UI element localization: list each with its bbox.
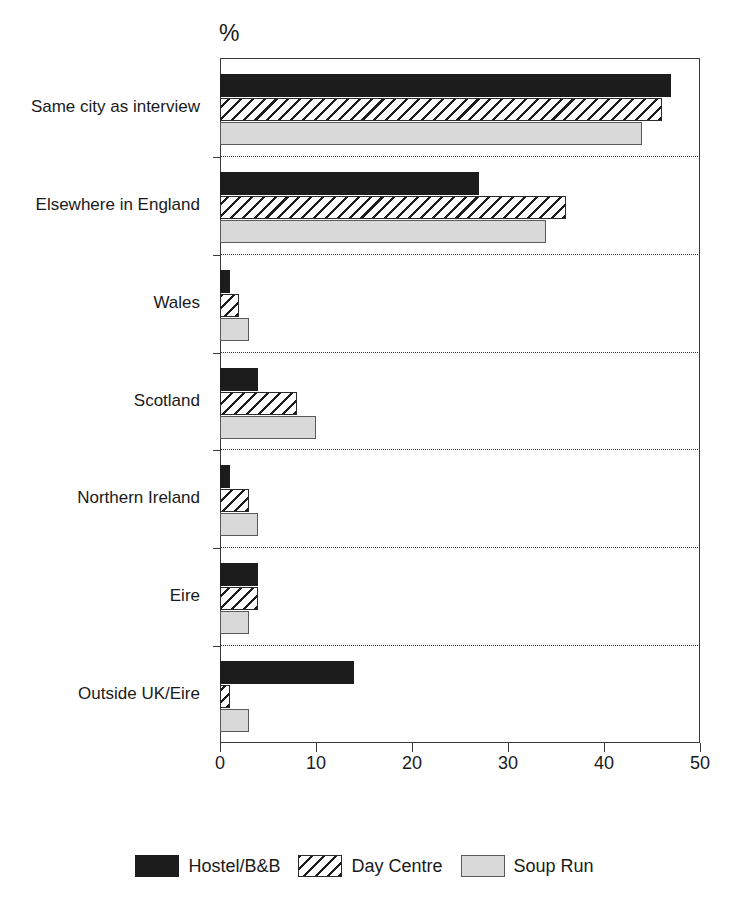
legend-swatch-souprun (461, 855, 505, 877)
bar-hostel (220, 563, 258, 586)
x-axis-tick-label: 20 (402, 752, 422, 774)
x-axis-tick-label: 10 (306, 752, 326, 774)
bar-daycentre (220, 489, 249, 512)
category-label: Eire (0, 586, 200, 606)
x-axis-tick (220, 743, 221, 752)
bar-hostel (220, 74, 671, 97)
bar-souprun (220, 611, 249, 634)
bar-hostel (220, 661, 354, 684)
x-axis-unit-label: % (219, 20, 240, 46)
bar-groups (220, 58, 700, 743)
bar-daycentre (220, 392, 297, 415)
bar-daycentre (220, 294, 239, 317)
category-label: Wales (0, 293, 200, 313)
bar-group (220, 352, 700, 450)
x-axis-tick-label: 30 (498, 752, 518, 774)
bar-souprun (220, 220, 546, 243)
legend-item-souprun[interactable]: Soup Run (461, 855, 594, 877)
x-axis-tick-label: 50 (690, 752, 710, 774)
x-axis-tick-label: 0 (215, 752, 225, 774)
bar-group (220, 449, 700, 547)
category-label: Scotland (0, 391, 200, 411)
bar-souprun (220, 513, 258, 536)
legend-label: Day Centre (351, 855, 442, 877)
bar-group (220, 547, 700, 645)
bar-hostel (220, 465, 230, 488)
bar-chart: % Same city as interviewElsewhere in Eng… (0, 0, 729, 904)
x-axis-tick (316, 743, 317, 752)
category-label: Northern Ireland (0, 488, 200, 508)
x-axis-tick (604, 743, 605, 752)
x-axis-tick (412, 743, 413, 752)
bar-group (220, 156, 700, 254)
x-axis-tick (700, 743, 701, 752)
x-axis-tick-label: 40 (594, 752, 614, 774)
legend-swatch-daycentre (298, 855, 342, 877)
bar-souprun (220, 318, 249, 341)
bar-souprun (220, 416, 316, 439)
bar-daycentre (220, 98, 662, 121)
x-axis-tick (508, 743, 509, 752)
bar-hostel (220, 270, 230, 293)
bar-hostel (220, 172, 479, 195)
bar-hostel (220, 368, 258, 391)
legend-item-hostel[interactable]: Hostel/B&B (135, 855, 280, 877)
bar-daycentre (220, 685, 230, 708)
legend-label: Soup Run (514, 855, 594, 877)
chart-legend: Hostel/B&BDay CentreSoup Run (0, 855, 729, 877)
bar-souprun (220, 122, 642, 145)
category-label: Same city as interview (0, 97, 200, 117)
category-axis-labels: Same city as interviewElsewhere in Engla… (0, 58, 210, 743)
bar-daycentre (220, 587, 258, 610)
legend-item-daycentre[interactable]: Day Centre (298, 855, 442, 877)
legend-label: Hostel/B&B (188, 855, 280, 877)
legend-swatch-hostel (135, 855, 179, 877)
bar-group (220, 254, 700, 352)
x-axis-tick-labels: 01020304050 (220, 752, 700, 778)
bar-souprun (220, 709, 249, 732)
bar-group (220, 58, 700, 156)
bar-daycentre (220, 196, 566, 219)
category-label: Outside UK/Eire (0, 684, 200, 704)
category-label: Elsewhere in England (0, 195, 200, 215)
bar-group (220, 645, 700, 743)
